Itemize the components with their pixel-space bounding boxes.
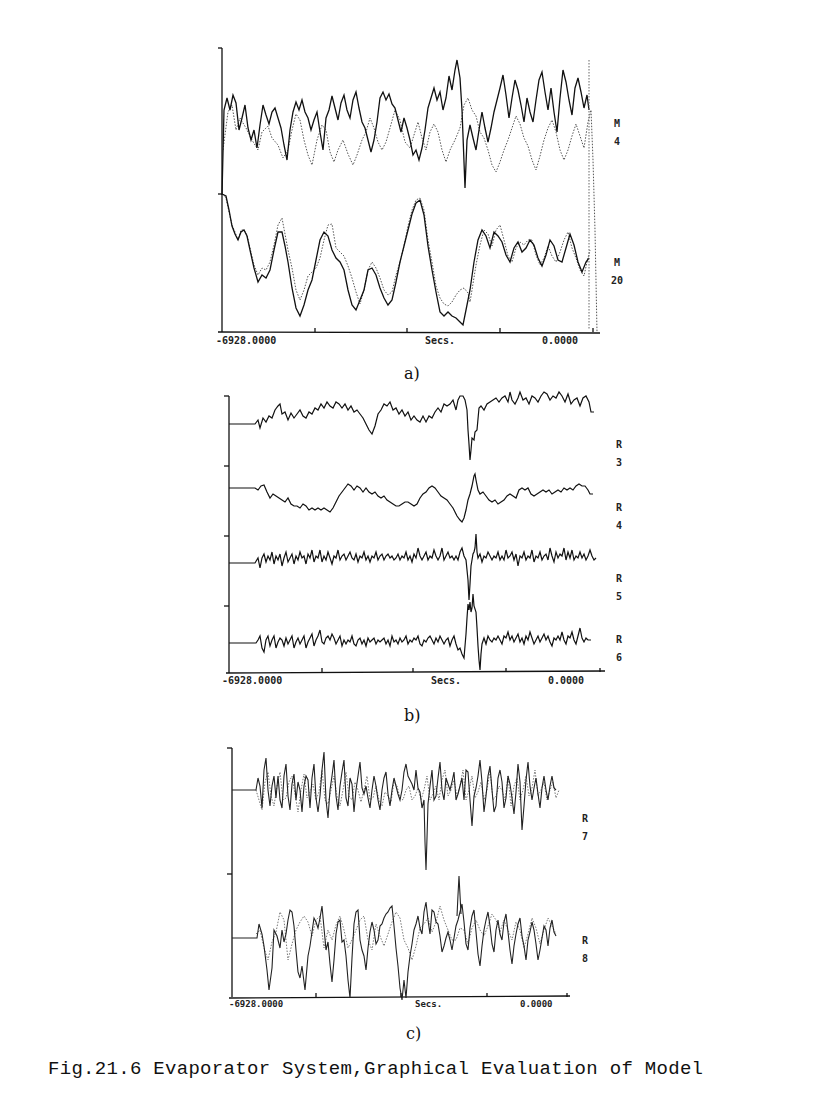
x-unit-label-c: Secs. xyxy=(415,999,442,1009)
trace-label-r8: R 8 xyxy=(578,927,592,963)
trace-label-r8-bottom: 8 xyxy=(582,953,588,964)
trace-label-r7-bottom: 7 xyxy=(582,831,588,842)
trace-label-r8-top: R xyxy=(582,935,588,946)
sub-caption-c: c) xyxy=(406,1024,421,1043)
figure-caption: Fig.21.6 Evaporator System,Graphical Eva… xyxy=(48,1058,703,1080)
trace-label-r7-top: R xyxy=(582,813,588,824)
trace-label-r7: R 7 xyxy=(578,805,592,841)
panel-c-plot xyxy=(0,0,832,1099)
x-end-label-c: 0.0000 xyxy=(520,999,553,1009)
x-start-label-c: -6928.0000 xyxy=(229,999,283,1009)
